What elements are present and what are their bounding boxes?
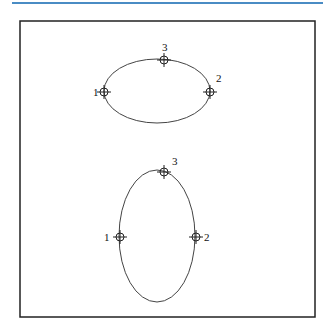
point-label: 3 (162, 41, 168, 53)
vertical-ellipse (119, 170, 195, 302)
diagram-canvas: 123 123 (0, 0, 333, 331)
horizontal-ellipse-points: 123 (93, 41, 222, 99)
point-label: 3 (172, 155, 178, 167)
vertical-ellipse-points: 123 (104, 155, 210, 244)
diagram-frame (20, 21, 315, 317)
point-label: 2 (204, 231, 210, 243)
point-label: 1 (93, 86, 99, 98)
horizontal-ellipse (104, 59, 210, 123)
point-label: 2 (216, 72, 222, 84)
point-label: 1 (104, 231, 110, 243)
